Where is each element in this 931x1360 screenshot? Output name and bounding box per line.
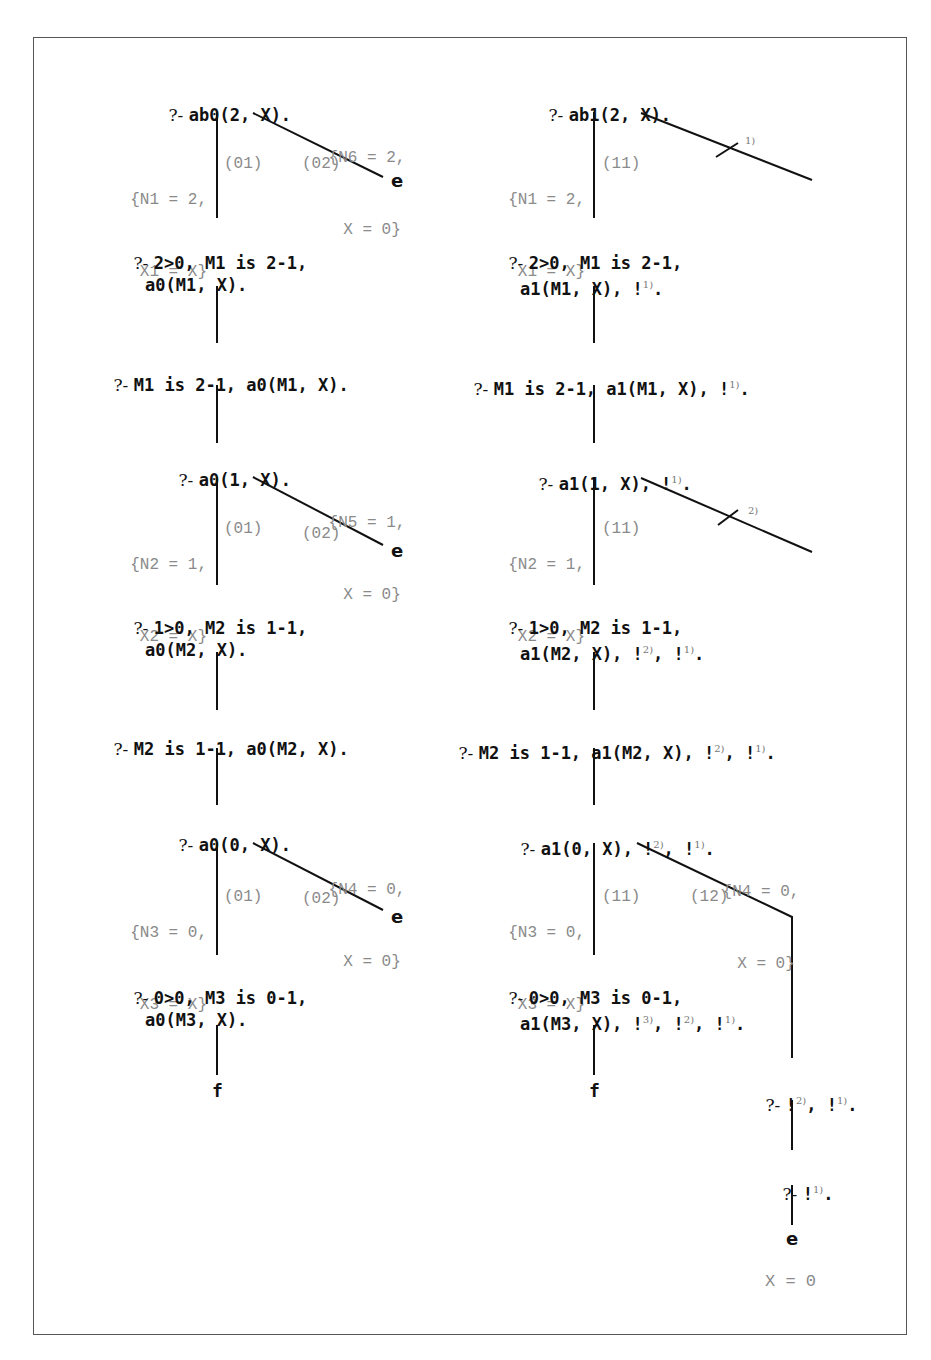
clause-label: (12) xyxy=(690,888,728,906)
goal-node: ?- ab0(2, X). xyxy=(148,82,291,126)
clause-label: (01) xyxy=(224,888,262,906)
goal-node: ?- M1 is 2-1, a1(M1, X), !1). xyxy=(453,352,750,400)
clause-label: (01) xyxy=(224,155,262,173)
success-leaf: e xyxy=(786,1228,798,1249)
goal-node: ?- M2 is 1-1, a1(M2, X), !2), !1). xyxy=(438,716,776,764)
clause-label: (01) xyxy=(224,520,262,538)
goal-node: ?- a0(1, X). xyxy=(158,447,291,491)
goal-node: ?- 0>0, M3 is 0-1,a0(M3, X). xyxy=(113,965,307,1031)
goal-node: ?- M1 is 2-1, a0(M1, X). xyxy=(93,352,349,396)
clause-label: (02) xyxy=(302,890,340,908)
cut-marker-label: 1) xyxy=(745,135,755,146)
goal-node: ?- !1). xyxy=(762,1157,834,1205)
goal-node: ?- M2 is 1-1, a0(M2, X). xyxy=(93,716,349,760)
clause-label: (11) xyxy=(602,520,640,538)
goal-node: ?- !2), !1). xyxy=(745,1068,858,1116)
goal-node: ?- ab1(2, X). xyxy=(528,82,671,126)
clause-label: (02) xyxy=(302,155,340,173)
answer-substitution: X = 0 xyxy=(765,1272,816,1291)
goal-node: ?- a1(0, X), !2), !1). xyxy=(500,812,715,860)
cut-marker-label: 2) xyxy=(748,505,758,516)
success-leaf: e xyxy=(391,540,403,561)
goal-node: ?- 0>0, M3 is 0-1,a1(M3, X), !3), !2), !… xyxy=(488,965,745,1035)
goal-node: ?- a1(1, X), !1). xyxy=(518,447,692,495)
clause-label: (02) xyxy=(302,525,340,543)
goal-node: ?- 2>0, M1 is 2-1,a1(M1, X), !1). xyxy=(488,230,682,300)
failure-leaf: f xyxy=(589,1080,600,1101)
failure-leaf: f xyxy=(212,1080,223,1101)
goal-node: ?- 2>0, M1 is 2-1,a0(M1, X). xyxy=(113,230,307,296)
goal-node: ?- 1>0, M2 is 1-1,a1(M2, X), !2), !1). xyxy=(488,595,704,665)
goal-node: ?- a0(0, X). xyxy=(158,812,291,856)
clause-label: (11) xyxy=(602,888,640,906)
clause-label: (11) xyxy=(602,155,640,173)
success-leaf: e xyxy=(391,170,403,191)
goal-node: ?- 1>0, M2 is 1-1,a0(M2, X). xyxy=(113,595,307,661)
success-leaf: e xyxy=(391,906,403,927)
